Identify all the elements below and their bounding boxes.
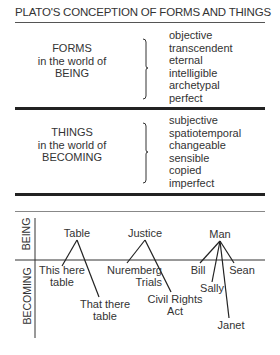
- form-node-table: Table: [62, 227, 92, 239]
- instance-node: Janet: [213, 319, 249, 331]
- instance-node: Bill: [186, 264, 210, 276]
- brace-icon: [143, 39, 148, 99]
- instance-line: Civil Rights: [135, 293, 215, 305]
- instance-line: Nuremberg: [96, 264, 162, 276]
- instance-node: That there table: [70, 298, 140, 322]
- form-node-man: Man: [205, 228, 235, 240]
- instance-line: That there: [70, 298, 140, 310]
- instance-line: table: [70, 310, 140, 322]
- instance-line: table: [32, 276, 92, 288]
- instance-node: Civil Rights Act: [135, 293, 215, 317]
- instance-line: This here: [32, 264, 92, 276]
- instance-line: Act: [135, 305, 215, 317]
- axis-label-being: BEING: [20, 209, 32, 259]
- instance-node: Nuremberg Trials: [96, 264, 162, 288]
- form-node-justice: Justice: [120, 227, 170, 239]
- instance-node: Sally: [196, 282, 228, 294]
- brace-icon: [143, 123, 148, 183]
- instance-line: Trials: [96, 276, 162, 288]
- instance-node: Sean: [224, 264, 260, 276]
- instance-node: This here table: [32, 264, 92, 288]
